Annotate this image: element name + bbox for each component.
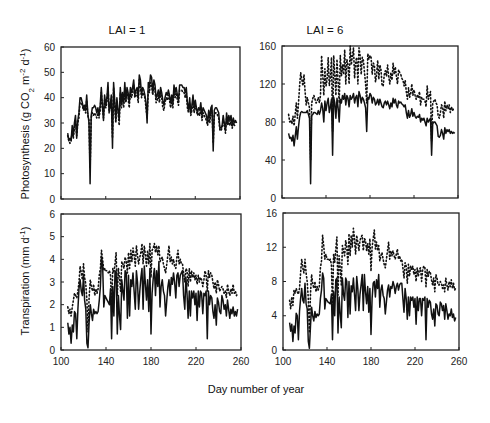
y-tick-label: 40 bbox=[44, 92, 56, 103]
x-tick-label: 180 bbox=[363, 356, 380, 367]
panel-photosynthesis-lai6: 04080120160 bbox=[259, 41, 458, 204]
y-tick-label: 120 bbox=[259, 79, 276, 90]
x-tick-label: 140 bbox=[98, 356, 115, 367]
y-tick-label: 4 bbox=[49, 254, 55, 265]
y-tick-label: 60 bbox=[44, 42, 56, 53]
y-tick-label: 10 bbox=[44, 168, 56, 179]
y-tick-label: 4 bbox=[271, 310, 277, 321]
x-tick-label: 220 bbox=[188, 356, 205, 367]
y-tick-label: 30 bbox=[44, 118, 56, 129]
y-tick-label: 12 bbox=[266, 242, 278, 253]
x-tick-label: 220 bbox=[407, 356, 424, 367]
y-tick-label: 1 bbox=[49, 322, 55, 333]
x-tick-label: 100 bbox=[53, 356, 70, 367]
x-tick-label: 260 bbox=[451, 356, 468, 367]
y-tick-label: 6 bbox=[49, 209, 55, 220]
column-title-lai1: LAI = 1 bbox=[109, 24, 146, 36]
y-tick-label: 0 bbox=[271, 345, 277, 356]
y-tick-label: 0 bbox=[49, 345, 55, 356]
x-axis-label: Day number of year bbox=[208, 383, 305, 395]
column-title-lai6: LAI = 6 bbox=[307, 24, 344, 36]
y-tick-label: 2 bbox=[49, 299, 55, 310]
figure: LAI = 1 LAI = 6 Photosynthesis (g CO2 m-… bbox=[0, 0, 490, 423]
series-line-solid bbox=[68, 75, 237, 184]
series-line-solid bbox=[289, 92, 455, 184]
series-line-solid bbox=[68, 257, 238, 348]
y-tick-label: 80 bbox=[265, 117, 277, 128]
x-tick-label: 100 bbox=[275, 356, 292, 367]
panel-transpiration-lai1: 0123456100140180220260 bbox=[49, 209, 249, 368]
y-tick-label: 3 bbox=[49, 277, 55, 288]
y-tick-label: 16 bbox=[266, 208, 278, 219]
y-tick-label: 50 bbox=[44, 67, 56, 78]
x-tick-label: 180 bbox=[143, 356, 160, 367]
y-axis-label-transpiration: Transpiration (mm d-1) bbox=[18, 227, 32, 336]
series-line-dotted bbox=[68, 80, 237, 169]
y-tick-label: 5 bbox=[49, 231, 55, 242]
y-tick-label: 160 bbox=[259, 41, 276, 52]
x-tick-label: 260 bbox=[233, 356, 250, 367]
y-tick-label: 8 bbox=[271, 276, 277, 287]
y-tick-label: 0 bbox=[49, 194, 55, 205]
y-axis-label-photosynthesis: Photosynthesis (g CO2 m-2 d-1) bbox=[18, 49, 36, 200]
y-tick-label: 20 bbox=[44, 143, 56, 154]
x-tick-label: 140 bbox=[319, 356, 336, 367]
panel-transpiration-lai6: 0481216100140180220260 bbox=[266, 208, 468, 368]
y-tick-label: 0 bbox=[270, 193, 276, 204]
panel-photosynthesis-lai1: 0102030405060 bbox=[44, 42, 240, 205]
y-tick-label: 40 bbox=[265, 155, 277, 166]
